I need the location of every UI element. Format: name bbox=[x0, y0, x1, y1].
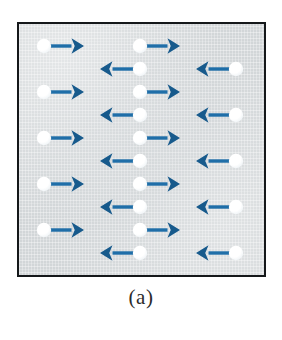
spin-right bbox=[37, 176, 84, 192]
arrow-head-icon bbox=[72, 222, 85, 238]
atom-dot bbox=[37, 131, 51, 145]
atom-dot bbox=[229, 108, 243, 122]
spin-right bbox=[37, 38, 84, 54]
arrow-head-icon bbox=[72, 84, 85, 100]
spin-right bbox=[37, 222, 84, 238]
atom-dot bbox=[133, 108, 147, 122]
atom-dot bbox=[133, 62, 147, 76]
spin-arrows-layer bbox=[19, 24, 264, 275]
spin-right bbox=[133, 84, 180, 100]
atom-dot bbox=[133, 200, 147, 214]
arrow-head-icon bbox=[196, 245, 209, 261]
arrow-head-icon bbox=[72, 176, 85, 192]
atom-dot bbox=[37, 85, 51, 99]
spin-left bbox=[100, 107, 147, 123]
arrow-head-icon bbox=[72, 38, 85, 54]
atom-dot bbox=[229, 246, 243, 260]
atom-dot bbox=[133, 154, 147, 168]
spin-diagram-panel bbox=[17, 22, 266, 277]
atom-dot bbox=[229, 200, 243, 214]
spin-left bbox=[100, 153, 147, 169]
spin-right bbox=[133, 130, 180, 146]
atom-dot bbox=[133, 131, 147, 145]
spin-right bbox=[37, 84, 84, 100]
spin-left bbox=[100, 61, 147, 77]
spin-right bbox=[133, 222, 180, 238]
spin-left bbox=[100, 245, 147, 261]
atom-dot bbox=[133, 85, 147, 99]
spin-right bbox=[37, 130, 84, 146]
arrow-head-icon bbox=[168, 176, 181, 192]
atom-dot bbox=[133, 246, 147, 260]
arrow-head-icon bbox=[196, 153, 209, 169]
arrow-head-icon bbox=[72, 130, 85, 146]
atom-dot bbox=[229, 154, 243, 168]
arrow-head-icon bbox=[196, 107, 209, 123]
atom-dot bbox=[37, 177, 51, 191]
arrow-head-icon bbox=[100, 245, 113, 261]
atom-dot bbox=[133, 39, 147, 53]
spin-right bbox=[133, 38, 180, 54]
figure-root: (a) bbox=[0, 0, 282, 340]
atom-dot bbox=[37, 39, 51, 53]
atom-dot bbox=[37, 223, 51, 237]
spin-right bbox=[133, 176, 180, 192]
atom-dot bbox=[133, 223, 147, 237]
spin-left bbox=[100, 199, 147, 215]
arrow-head-icon bbox=[196, 61, 209, 77]
arrow-head-icon bbox=[168, 84, 181, 100]
arrow-head-icon bbox=[168, 130, 181, 146]
arrow-head-icon bbox=[100, 107, 113, 123]
spin-left bbox=[196, 199, 243, 215]
spin-left bbox=[196, 107, 243, 123]
spin-left bbox=[196, 153, 243, 169]
spin-left bbox=[196, 245, 243, 261]
arrow-head-icon bbox=[168, 38, 181, 54]
atom-dot bbox=[133, 177, 147, 191]
arrow-head-icon bbox=[100, 153, 113, 169]
atom-dot bbox=[229, 62, 243, 76]
spin-group bbox=[37, 38, 243, 261]
arrow-head-icon bbox=[196, 199, 209, 215]
arrow-head-icon bbox=[100, 61, 113, 77]
figure-caption: (a) bbox=[0, 285, 282, 310]
arrow-head-icon bbox=[168, 222, 181, 238]
arrow-head-icon bbox=[100, 199, 113, 215]
spin-left bbox=[196, 61, 243, 77]
